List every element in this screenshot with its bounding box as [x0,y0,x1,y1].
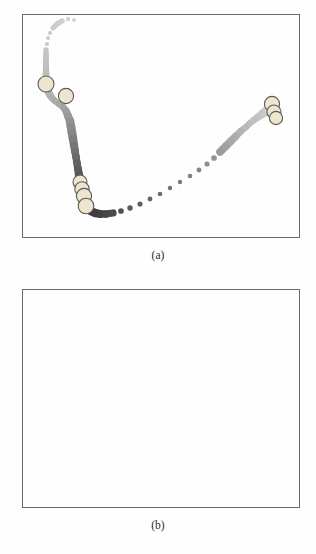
highlighted-point [38,76,54,92]
data-point [217,149,223,155]
panel-a-scatter [22,14,300,238]
data-point [97,211,103,217]
highlighted-point [58,88,73,103]
data-point [72,18,76,22]
data-point [197,168,202,173]
data-point [44,48,48,52]
panel-b-plot-area [22,289,300,508]
data-point [168,186,172,190]
data-point [43,65,48,70]
data-point [46,36,50,40]
data-point [158,192,163,197]
panel-b-caption: (b) [0,519,316,531]
data-point [223,143,229,149]
data-point [44,54,49,59]
data-point [60,19,65,24]
data-point [148,197,153,202]
data-point [204,161,209,166]
data-point [68,129,75,136]
data-point [75,166,81,172]
data-point [67,118,74,125]
highlighted-point [269,111,282,124]
data-point [55,22,59,26]
data-point [238,128,243,133]
panel-a-caption-text: (a) [152,249,165,261]
panel-a-plot-area [22,14,300,238]
data-point [66,17,70,21]
panel-b-caption-text: (b) [151,519,164,531]
highlighted-point [78,198,94,214]
data-point [73,154,79,160]
panel-a [22,14,300,238]
data-point [48,31,52,35]
data-point [70,136,77,143]
data-point [211,155,217,161]
data-point [72,148,78,154]
data-point [71,142,78,149]
data-point [178,180,182,184]
data-point [233,133,239,139]
data-point [103,211,109,217]
data-point [51,26,55,30]
data-point [110,210,116,216]
data-point [228,138,234,144]
data-point [118,208,124,214]
data-point [243,124,248,129]
panel-b-scatter [22,289,300,508]
data-point [127,205,132,210]
data-point [74,160,80,166]
panel-a-caption: (a) [0,249,316,261]
data-point [45,42,49,46]
figure-page: · · · · · · · · · · · · · · · · · · · · … [0,0,316,554]
data-point [188,174,193,179]
data-point [137,201,142,206]
panel-b [22,289,300,508]
data-point [44,60,49,65]
